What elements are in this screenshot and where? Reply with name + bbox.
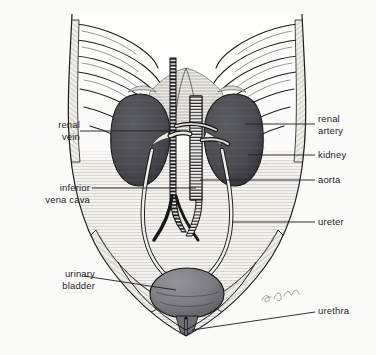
label-urinary-bladder-line2: bladder <box>62 280 95 291</box>
label-inferior-vena-cava-line2: vena cava <box>45 194 90 205</box>
label-inferior-vena-cava: inferiorvena cava <box>45 182 90 205</box>
label-urethra: urethra <box>318 305 349 317</box>
label-urinary-bladder-line1: urinary <box>65 268 95 279</box>
label-renal-vein-line1: renal <box>58 119 80 130</box>
label-renal-artery: renalartery <box>318 113 343 136</box>
label-renal-vein-line2: vein <box>62 131 80 142</box>
label-renal-artery-line2: artery <box>318 125 343 136</box>
label-ureter: ureter <box>318 216 344 228</box>
kidney-left <box>111 94 172 186</box>
label-kidney: kidney <box>318 149 346 161</box>
label-aorta: aorta <box>318 174 340 186</box>
label-inferior-vena-cava-line1: inferior <box>60 182 90 193</box>
label-renal-artery-line1: renal <box>318 113 340 124</box>
label-urinary-bladder: urinarybladder <box>62 268 95 291</box>
label-renal-vein: renalvein <box>58 119 80 142</box>
